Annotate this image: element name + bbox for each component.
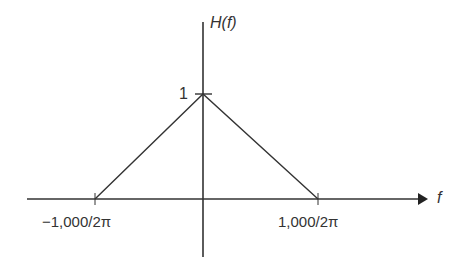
x-right-tick-label: 1,000/2π [278, 214, 338, 229]
x-axis-arrowhead-icon [418, 193, 428, 205]
peak-value-label: 1 [179, 86, 188, 102]
y-axis-label: H(f) [210, 15, 237, 31]
x-axis-label: f [437, 190, 441, 206]
x-left-tick-label: −1,000/2π [42, 214, 111, 229]
triangle-response-line [95, 94, 318, 199]
